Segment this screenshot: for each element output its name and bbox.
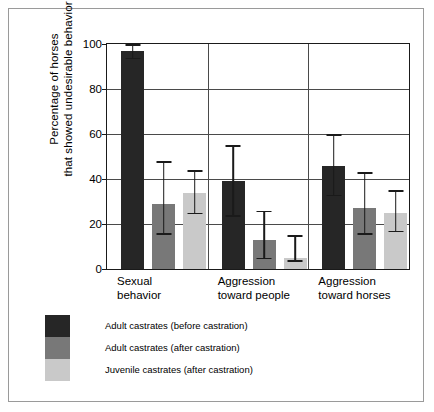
error-bar-cap-low-g2-s0 xyxy=(326,195,341,197)
error-bar-cap-low-g1-s1 xyxy=(257,258,272,260)
error-bar-cap-low-g1-s0 xyxy=(226,215,241,217)
error-bar-line-g1-s1 xyxy=(263,211,265,258)
legend-swatch-adult-after xyxy=(45,337,70,359)
y-tick-label-20: 20 xyxy=(89,218,102,230)
figure: Percentage of horses that showed undesir… xyxy=(0,0,434,412)
y-tick-mark-0 xyxy=(102,269,107,270)
error-bar-cap-high-g0-s2 xyxy=(187,170,202,172)
error-bar-cap-high-g1-s1 xyxy=(257,211,272,213)
y-tick-label-60: 60 xyxy=(89,128,102,140)
y-tick-label-80: 80 xyxy=(89,83,102,95)
y-axis-title: Percentage of horses that showed undesir… xyxy=(43,0,79,204)
legend-label-adult-after: Adult castrates (after castration) xyxy=(105,342,240,353)
y-tick-mark-100 xyxy=(102,44,107,45)
error-bar-cap-high-g1-s2 xyxy=(288,235,303,237)
legend-label-juvenile-after: Juvenile castrates (after castration) xyxy=(105,364,253,375)
error-bar-cap-low-g2-s1 xyxy=(357,233,372,235)
error-bar-line-g1-s0 xyxy=(232,145,234,215)
error-bar-line-g0-s1 xyxy=(163,161,165,233)
x-axis-label-0: Sexual behavior xyxy=(117,275,161,302)
error-bar-cap-high-g2-s0 xyxy=(326,134,341,136)
y-tick-label-100: 100 xyxy=(83,38,102,50)
y-axis-title-line1: Percentage of horses xyxy=(47,33,61,144)
error-bar-line-g2-s1 xyxy=(364,172,366,233)
error-bar-cap-high-g0-s1 xyxy=(156,161,171,163)
y-axis-title-line2: that showed undesirable behavior xyxy=(61,1,75,176)
error-bar-cap-high-g2-s1 xyxy=(357,172,372,174)
group-separator-1 xyxy=(208,44,209,269)
error-bar-cap-low-g0-s1 xyxy=(156,233,171,235)
figure-border: Percentage of horses that showed undesir… xyxy=(8,8,424,402)
error-bar-cap-high-g0-s0 xyxy=(125,44,140,46)
error-bar-cap-low-g1-s2 xyxy=(288,260,303,262)
error-bar-line-g1-s2 xyxy=(294,235,296,260)
plot-area: 020406080100 xyxy=(106,43,410,270)
error-bar-cap-high-g1-s0 xyxy=(226,145,241,147)
error-bar-cap-low-g0-s0 xyxy=(125,58,140,60)
error-bar-line-g2-s0 xyxy=(333,134,335,195)
gridline-60 xyxy=(107,134,409,135)
bar-g0-s0 xyxy=(121,51,144,269)
x-axis-label-2: Aggression toward horses xyxy=(318,275,390,302)
error-bar-line-g0-s2 xyxy=(194,170,196,213)
legend-label-adult-before: Adult castrates (before castration) xyxy=(105,320,248,331)
legend-swatch-juvenile-after xyxy=(45,359,70,381)
group-separator-2 xyxy=(308,44,309,269)
y-tick-label-40: 40 xyxy=(89,173,102,185)
error-bar-line-g0-s0 xyxy=(132,44,134,58)
error-bar-cap-low-g2-s2 xyxy=(388,231,403,233)
x-axis-label-1: Aggression toward people xyxy=(218,275,290,302)
gridline-80 xyxy=(107,89,409,90)
error-bar-cap-low-g0-s2 xyxy=(187,213,202,215)
error-bar-line-g2-s2 xyxy=(395,190,397,231)
legend-swatch-adult-before xyxy=(45,315,70,337)
error-bar-cap-high-g2-s2 xyxy=(388,190,403,192)
